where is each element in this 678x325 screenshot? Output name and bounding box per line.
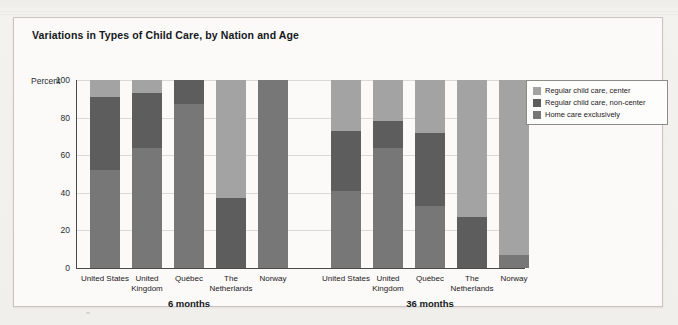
bar-segment-noncenter — [331, 131, 361, 191]
bar-united-states — [90, 80, 120, 268]
bar-segment-noncenter — [132, 93, 162, 148]
scan-speck — [86, 312, 90, 314]
bar-segment-center — [415, 80, 445, 133]
chart-legend: Regular child care, centerRegular child … — [526, 80, 668, 125]
bar-segment-center — [90, 80, 120, 97]
bar-segment-home — [174, 104, 204, 268]
y-tick-label: 20 — [30, 225, 70, 235]
legend-item-noncenter: Regular child care, non-center — [533, 98, 662, 107]
y-tick-label: 60 — [30, 150, 70, 160]
bar-québec — [174, 80, 204, 268]
bar-segment-home — [499, 255, 529, 268]
plot-area: 020406080100 — [76, 80, 524, 268]
bar-segment-noncenter — [457, 217, 487, 268]
y-tick-label: 0 — [30, 263, 70, 273]
bar-segment-home — [132, 148, 162, 268]
y-tick-label: 100 — [30, 75, 70, 85]
bar-segment-center — [457, 80, 487, 217]
bar-segment-center — [373, 80, 403, 121]
bar-segment-noncenter — [373, 121, 403, 147]
bar-segment-home — [258, 80, 288, 268]
y-tick-label: 80 — [30, 113, 70, 123]
legend-item-center: Regular child care, center — [533, 86, 662, 95]
bar-the-netherlands — [216, 80, 246, 268]
category-label: Norway — [245, 274, 301, 284]
chart-title: Variations in Types of Child Care, by Na… — [32, 29, 299, 41]
legend-item-home: Home care exclusively — [533, 110, 662, 119]
bar-segment-noncenter — [174, 80, 204, 104]
bar-united-states — [331, 80, 361, 268]
legend-label: Home care exclusively — [545, 110, 620, 119]
bar-segment-home — [331, 191, 361, 268]
page-background: Variations in Types of Child Care, by Na… — [0, 0, 678, 325]
legend-label: Regular child care, non-center — [545, 98, 645, 107]
bar-segment-center — [331, 80, 361, 131]
category-label: Norway — [486, 274, 542, 284]
bar-segment-noncenter — [415, 133, 445, 206]
bar-segment-home — [373, 148, 403, 268]
group-label-36-months: 36 months — [345, 298, 515, 309]
group-label-6-months: 6 months — [104, 298, 274, 309]
bar-united-kingdom — [373, 80, 403, 268]
legend-label: Regular child care, center — [545, 86, 630, 95]
chart-panel: Variations in Types of Child Care, by Na… — [13, 17, 663, 307]
bar-segment-noncenter — [216, 198, 246, 268]
bar-segment-home — [415, 206, 445, 268]
bar-segment-center — [132, 80, 162, 93]
bar-norway — [258, 80, 288, 268]
legend-swatch-home — [533, 111, 541, 119]
bar-segment-center — [216, 80, 246, 198]
bar-segment-home — [90, 170, 120, 268]
legend-swatch-noncenter — [533, 99, 541, 107]
legend-swatch-center — [533, 87, 541, 95]
bar-united-kingdom — [132, 80, 162, 268]
y-axis-line — [76, 80, 77, 269]
bar-segment-center — [499, 80, 529, 255]
bar-québec — [415, 80, 445, 268]
bar-segment-noncenter — [90, 97, 120, 170]
x-axis-line — [76, 268, 525, 269]
y-tick-label: 40 — [30, 188, 70, 198]
bar-the-netherlands — [457, 80, 487, 268]
bar-norway — [499, 80, 529, 268]
